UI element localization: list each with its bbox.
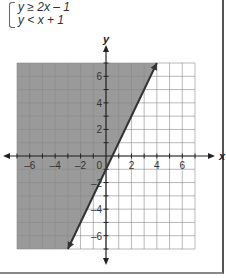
x-tick-label: 6: [180, 160, 186, 171]
inequality-graph: –6–4–2246642–2–4–60xy: [0, 0, 226, 278]
x-tick-label: 2: [129, 160, 135, 171]
x-tick-label: –6: [24, 160, 36, 171]
x-tick-label: –4: [50, 160, 62, 171]
x-axis-label: x: [218, 150, 226, 162]
y-tick-label: 4: [96, 98, 102, 109]
y-tick-label: –4: [91, 204, 103, 215]
y-axis-arrow-up-icon: [103, 45, 109, 52]
x-axis-arrow-right-icon: [208, 153, 215, 159]
x-axis-arrow-left-icon: [3, 153, 10, 159]
x-tick-label: 4: [154, 160, 160, 171]
y-tick-label: –6: [91, 231, 103, 242]
origin-label: 0: [96, 160, 102, 171]
y-tick-label: 2: [96, 124, 102, 135]
y-axis-label: y: [102, 33, 110, 45]
y-axis-arrow-down-icon: [103, 258, 109, 265]
y-tick-label: 6: [96, 71, 102, 82]
x-tick-label: –2: [75, 160, 87, 171]
y-tick-label: –2: [91, 178, 103, 189]
